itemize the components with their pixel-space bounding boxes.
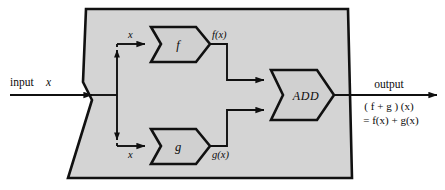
function-addition-diagram: input x x x f f(x) [0,0,445,190]
f-input-variable-label: x [127,29,133,40]
g-output-label: g(x) [212,149,229,161]
f-output-label: f(x) [212,29,227,41]
block-g[interactable]: g [151,129,210,164]
output-label: output [374,78,404,91]
block-f[interactable]: f [151,27,210,62]
input-variable-label: x [45,76,52,88]
output-expression-line2: = f(x) + g(x) [363,114,419,127]
diagram-canvas: input x x x f f(x) [0,0,445,190]
block-f-shape[interactable] [151,27,210,62]
g-input-variable-label: x [127,149,133,160]
output-expression-line1: ( f + g ) (x) [364,100,414,113]
block-g-label: g [175,140,181,154]
input-label: input [10,76,34,89]
input-arrow-group: input x [10,76,92,95]
block-add-label: ADD [292,89,319,103]
